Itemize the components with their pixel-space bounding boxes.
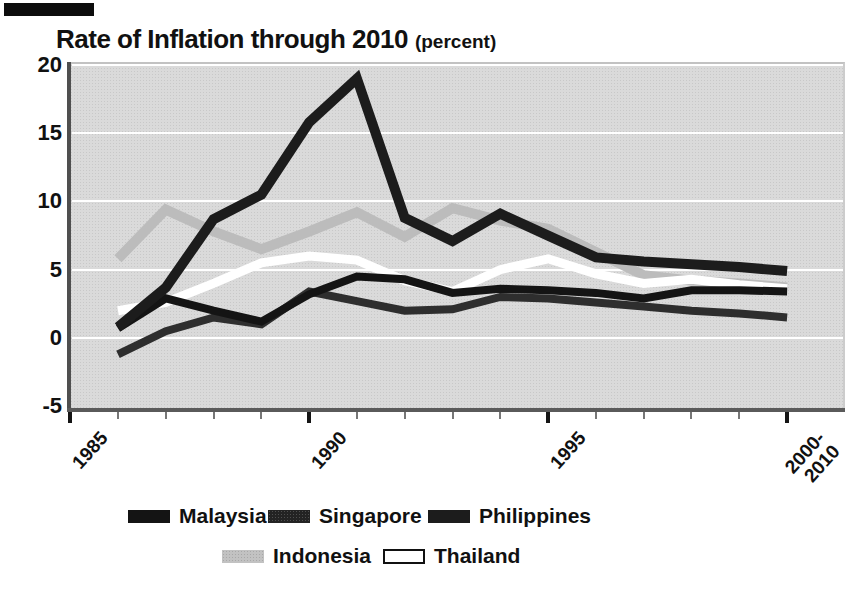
x-minor-tick bbox=[356, 412, 358, 419]
legend-label-indonesia: Indonesia bbox=[273, 544, 371, 568]
x-axis-line bbox=[67, 408, 845, 412]
gridline-0 bbox=[72, 337, 843, 339]
legend-label-thailand: Thailand bbox=[434, 544, 520, 568]
x-tick-label-1990: 1990 bbox=[273, 428, 351, 512]
page-artifact-mark bbox=[4, 3, 94, 16]
x-major-tick bbox=[68, 412, 72, 423]
plot-area bbox=[70, 62, 845, 410]
x-tick-label-2000-2010: 2000- 2010 bbox=[750, 428, 843, 525]
chart-title: Rate of Inflation through 2010(percent) bbox=[56, 24, 496, 55]
legend-swatch-indonesia bbox=[222, 550, 264, 563]
x-minor-tick bbox=[738, 412, 740, 419]
legend-item-indonesia: Indonesia bbox=[222, 543, 371, 569]
x-major-tick bbox=[307, 412, 311, 423]
x-minor-tick bbox=[213, 412, 215, 419]
legend-item-thailand: Thailand bbox=[383, 543, 520, 569]
chart-title-unit: (percent) bbox=[415, 31, 496, 52]
legend-label-malaysia: Malaysia bbox=[179, 504, 267, 528]
legend-swatch-philippines bbox=[428, 510, 470, 523]
y-tick-label-0: 0 bbox=[14, 325, 62, 351]
legend-swatch-malaysia bbox=[128, 510, 170, 523]
gridline-20 bbox=[72, 64, 843, 66]
legend-swatch-thailand bbox=[383, 549, 425, 564]
x-minor-tick bbox=[404, 412, 406, 419]
x-tick-label-1995: 1995 bbox=[512, 428, 590, 512]
y-tick-label-20: 20 bbox=[14, 52, 62, 78]
legend-swatch-singapore bbox=[268, 510, 310, 523]
legend-item-singapore: Singapore bbox=[268, 503, 422, 529]
x-minor-tick bbox=[643, 412, 645, 419]
gridline-5 bbox=[72, 269, 843, 271]
x-major-tick bbox=[785, 412, 789, 423]
x-minor-tick bbox=[595, 412, 597, 419]
legend-item-malaysia: Malaysia bbox=[128, 503, 267, 529]
x-minor-tick bbox=[452, 412, 454, 419]
x-minor-tick bbox=[690, 412, 692, 419]
x-minor-tick bbox=[499, 412, 501, 419]
chart-title-text: Rate of Inflation through 2010 bbox=[56, 24, 408, 54]
y-tick-label-15: 15 bbox=[14, 120, 62, 146]
legend-label-philippines: Philippines bbox=[479, 504, 591, 528]
x-minor-tick bbox=[165, 412, 167, 419]
y-tick-label-5: 5 bbox=[14, 257, 62, 283]
y-axis-line bbox=[67, 62, 71, 411]
gridline-15 bbox=[72, 132, 843, 134]
x-major-tick bbox=[546, 412, 550, 423]
x-minor-tick bbox=[260, 412, 262, 419]
gridline-10 bbox=[72, 200, 843, 202]
legend-item-philippines: Philippines bbox=[428, 503, 591, 529]
y-tick-label--5: -5 bbox=[14, 393, 62, 419]
y-tick-label-10: 10 bbox=[14, 188, 62, 214]
x-minor-tick bbox=[117, 412, 119, 419]
x-tick-label-1985: 1985 bbox=[34, 428, 112, 512]
legend-label-singapore: Singapore bbox=[319, 504, 422, 528]
